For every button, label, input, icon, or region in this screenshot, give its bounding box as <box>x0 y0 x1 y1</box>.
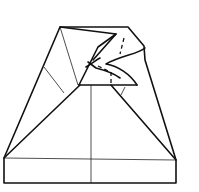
top-flap-edge <box>60 27 116 85</box>
left-top-crease <box>60 27 78 85</box>
tuck-pocket-lower <box>88 62 120 78</box>
right-diagonal-fold <box>111 85 176 160</box>
right-small-crease <box>121 87 125 95</box>
left-small-crease <box>44 67 64 93</box>
origami-diagram <box>0 0 199 192</box>
hidden-line-upper <box>120 38 124 54</box>
flap-inner-edge <box>93 34 116 60</box>
curled-flap <box>106 48 145 85</box>
bottom-crease <box>4 158 176 160</box>
left-diagonal-fold <box>4 85 80 158</box>
